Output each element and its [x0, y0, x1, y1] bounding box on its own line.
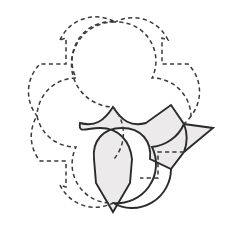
- figure-root: Interlocking notched-circle tessellation: [0, 0, 227, 225]
- tessellation-figure: [0, 0, 227, 225]
